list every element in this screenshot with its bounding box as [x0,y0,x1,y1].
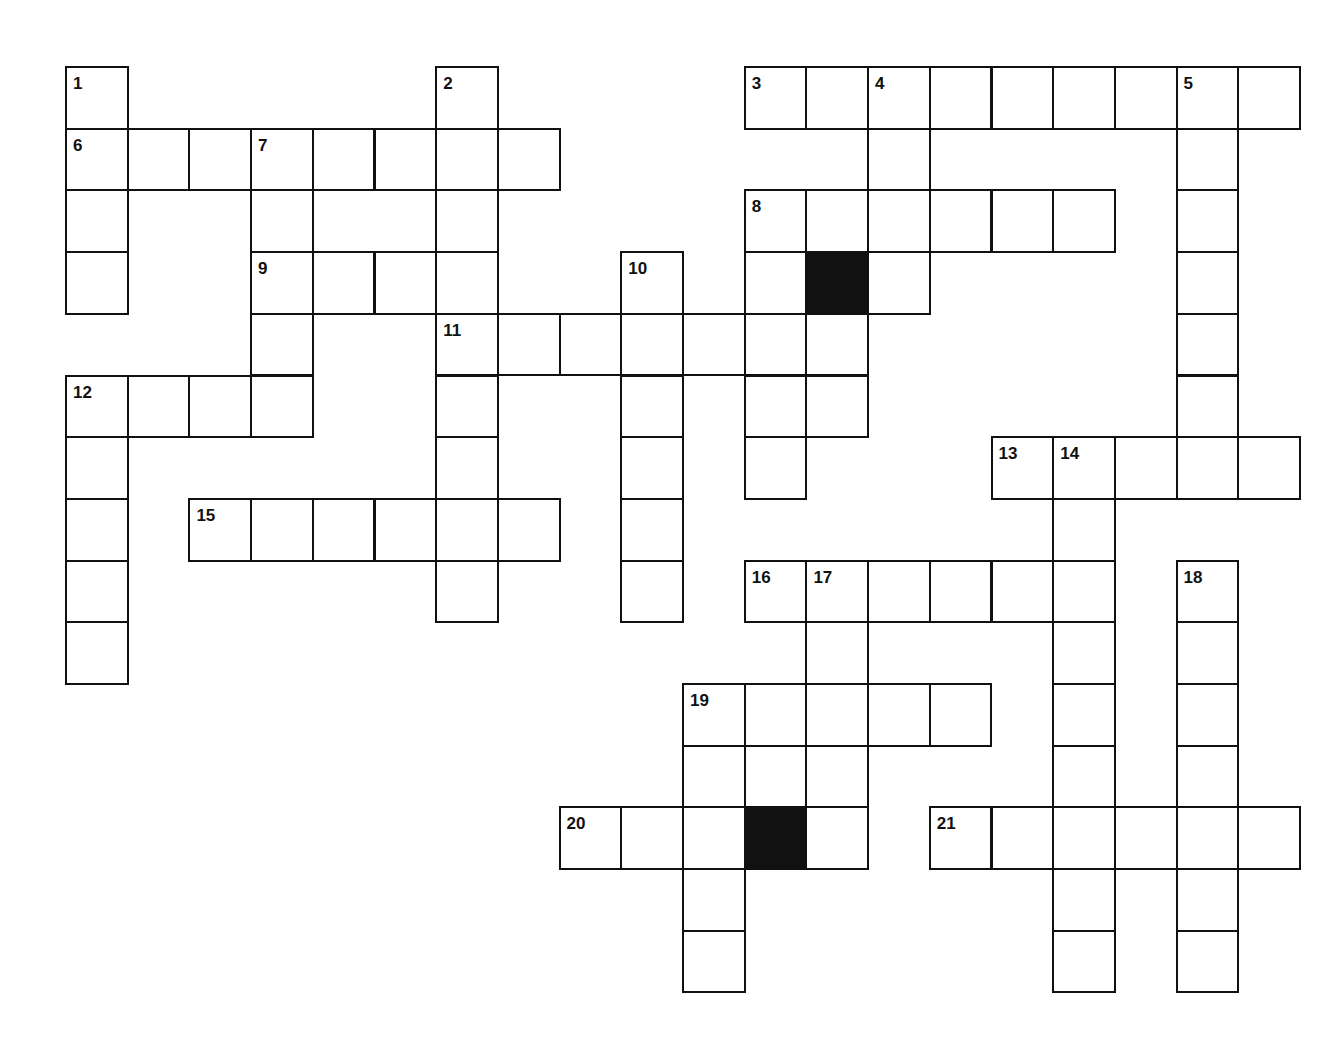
crossword-cell[interactable] [1237,806,1301,870]
crossword-cell[interactable] [991,66,1055,130]
crossword-cell[interactable] [744,251,808,315]
crossword-cell[interactable] [1176,683,1240,747]
crossword-cell[interactable] [65,498,129,562]
crossword-cell[interactable] [805,745,869,809]
crossword-cell[interactable] [1176,560,1240,624]
crossword-cell[interactable] [1176,313,1240,377]
crossword-cell[interactable] [929,806,993,870]
crossword-cell[interactable] [1052,66,1116,130]
crossword-cell[interactable] [682,313,746,377]
crossword-cell[interactable] [127,128,191,192]
crossword-cell[interactable] [312,498,376,562]
crossword-cell[interactable] [1052,868,1116,932]
crossword-cell[interactable] [744,375,808,439]
crossword-cell[interactable] [1052,806,1116,870]
crossword-cell[interactable] [620,498,684,562]
crossword-cell[interactable] [744,66,808,130]
crossword-cell[interactable] [435,66,499,130]
crossword-cell[interactable] [929,683,993,747]
crossword-cell[interactable] [312,251,376,315]
crossword-cell[interactable] [1237,436,1301,500]
crossword-cell[interactable] [1176,375,1240,439]
crossword-cell[interactable] [929,560,993,624]
crossword-cell[interactable] [374,498,438,562]
crossword-cell[interactable] [250,128,314,192]
crossword-cell[interactable] [435,436,499,500]
crossword-cell[interactable] [1052,930,1116,994]
crossword-cell[interactable] [65,251,129,315]
crossword-cell[interactable] [65,128,129,192]
crossword-cell[interactable] [867,560,931,624]
crossword-cell[interactable] [65,560,129,624]
crossword-cell[interactable] [65,189,129,253]
crossword-cell[interactable] [312,128,376,192]
crossword-cell[interactable] [991,189,1055,253]
crossword-cell[interactable] [744,560,808,624]
crossword-cell[interactable] [1052,498,1116,562]
crossword-cell[interactable] [250,498,314,562]
crossword-cell[interactable] [250,189,314,253]
crossword-cell[interactable] [744,436,808,500]
crossword-cell[interactable] [1176,868,1240,932]
crossword-cell[interactable] [867,128,931,192]
crossword-cell[interactable] [65,66,129,130]
crossword-cell[interactable] [250,251,314,315]
crossword-cell[interactable] [620,251,684,315]
crossword-cell[interactable] [1052,436,1116,500]
crossword-cell[interactable] [1114,436,1178,500]
crossword-cell[interactable] [744,189,808,253]
crossword-cell[interactable] [682,683,746,747]
crossword-cell[interactable] [497,498,561,562]
crossword-cell[interactable] [497,313,561,377]
crossword-cell[interactable] [1052,745,1116,809]
crossword-cell[interactable] [1052,560,1116,624]
crossword-cell[interactable] [1176,128,1240,192]
crossword-cell[interactable] [867,251,931,315]
crossword-cell[interactable] [1237,66,1301,130]
crossword-cell[interactable] [682,745,746,809]
crossword-cell[interactable] [805,806,869,870]
crossword-cell[interactable] [805,313,869,377]
crossword-cell[interactable] [1176,806,1240,870]
crossword-cell[interactable] [374,251,438,315]
crossword-cell[interactable] [805,375,869,439]
crossword-cell[interactable] [1176,745,1240,809]
crossword-cell[interactable] [867,683,931,747]
crossword-cell[interactable] [1052,683,1116,747]
crossword-cell[interactable] [1114,66,1178,130]
crossword-cell[interactable] [805,621,869,685]
crossword-cell[interactable] [744,313,808,377]
crossword-cell[interactable] [435,189,499,253]
crossword-cell[interactable] [620,436,684,500]
crossword-cell[interactable] [991,436,1055,500]
crossword-grid[interactable]: 123456789101112131415161718192021 [0,0,1337,1042]
crossword-cell[interactable] [1052,189,1116,253]
crossword-cell[interactable] [867,189,931,253]
crossword-cell[interactable] [65,375,129,439]
crossword-cell[interactable] [929,189,993,253]
crossword-cell[interactable] [435,375,499,439]
crossword-cell[interactable] [435,498,499,562]
crossword-cell[interactable] [991,806,1055,870]
crossword-cell[interactable] [65,621,129,685]
crossword-cell[interactable] [620,313,684,377]
crossword-cell[interactable] [744,683,808,747]
crossword-cell[interactable] [805,683,869,747]
crossword-cell[interactable] [435,560,499,624]
crossword-cell[interactable] [559,313,623,377]
crossword-cell[interactable] [188,498,252,562]
crossword-cell[interactable] [188,128,252,192]
crossword-cell[interactable] [435,128,499,192]
crossword-cell[interactable] [250,313,314,377]
crossword-cell[interactable] [1176,251,1240,315]
crossword-cell[interactable] [374,128,438,192]
crossword-cell[interactable] [682,868,746,932]
crossword-cell[interactable] [805,560,869,624]
crossword-cell[interactable] [682,930,746,994]
crossword-cell[interactable] [435,313,499,377]
crossword-cell[interactable] [497,128,561,192]
crossword-cell[interactable] [1176,189,1240,253]
crossword-cell[interactable] [991,560,1055,624]
crossword-cell[interactable] [1114,806,1178,870]
crossword-cell[interactable] [1052,621,1116,685]
